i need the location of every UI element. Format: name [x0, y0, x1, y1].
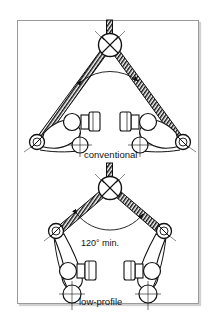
pad-block-left-conventional: [81, 115, 89, 129]
pad-pivot-right-conventional: [140, 114, 157, 131]
pad-shoe-right-low-profile: [124, 261, 135, 280]
label-angle-minimum: 120° min.: [81, 238, 119, 248]
pad-block-right-low-profile: [135, 264, 143, 278]
panel-low-profile: 120° min. low-profile: [44, 163, 176, 310]
pad-block-left-low-profile: [77, 264, 85, 278]
angle-arc-low-profile: [77, 214, 143, 230]
panel-conventional: conventional: [24, 20, 196, 160]
pad-block-right-conventional: [131, 115, 139, 129]
pad-pivot-left-low-profile: [60, 263, 77, 280]
pad-shoe-right-conventional: [120, 112, 131, 131]
pad-pivot-left-conventional: [64, 114, 81, 131]
pad-shoe-left-conventional: [89, 112, 100, 131]
label-low-profile: low-profile: [79, 296, 122, 307]
pad-shoe-left-low-profile: [85, 261, 96, 280]
figure-frame: conventional: [0, 0, 219, 324]
pad-pivot-right-low-profile: [144, 263, 161, 280]
brake-geometry-diagram: conventional: [0, 0, 219, 324]
brake-arm-right-low-profile: [124, 224, 176, 311]
label-conventional: conventional: [84, 149, 137, 160]
